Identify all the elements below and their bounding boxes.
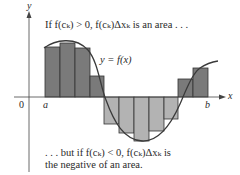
y-axis-label: y xyxy=(27,1,31,11)
rect-10 xyxy=(178,79,193,97)
rect-3 xyxy=(75,48,90,97)
b-label: b xyxy=(205,100,210,110)
curve-label: y = f(x) xyxy=(100,55,132,66)
a-label: a xyxy=(43,100,48,110)
x-axis-arrow-icon xyxy=(219,95,226,100)
rect-6 xyxy=(119,97,134,133)
y-axis-arrow-icon xyxy=(27,11,32,18)
positive-rectangles xyxy=(45,43,208,97)
negative-rectangles xyxy=(104,97,178,141)
x-axis-label: x xyxy=(228,91,232,101)
rect-9 xyxy=(164,97,178,119)
rect-1 xyxy=(45,47,60,97)
caption-bottom-line2: the negative of an area. xyxy=(45,160,143,171)
caption-bottom-line1: . . . but if f(cₖ) < 0, f(cₖ)Δxₖ is xyxy=(45,148,171,159)
rect-7 xyxy=(134,97,149,141)
rect-8 xyxy=(149,97,164,131)
rect-2 xyxy=(60,43,75,97)
caption-top: If f(cₖ) > 0, f(cₖ)Δxₖ is an area . . . xyxy=(45,20,188,31)
origin-label: 0 xyxy=(19,100,24,110)
